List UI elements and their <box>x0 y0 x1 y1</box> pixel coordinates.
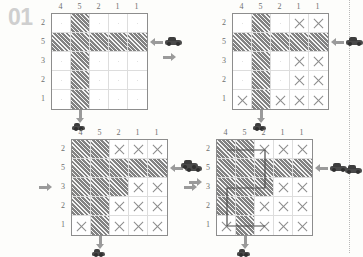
grid-cell[interactable] <box>293 216 312 235</box>
car-icon <box>181 160 198 169</box>
column-clue-4: 1 <box>273 128 292 137</box>
column-clues: 45211 <box>216 128 311 137</box>
grid-cell[interactable] <box>274 140 293 159</box>
column-clue-5: 1 <box>292 128 311 137</box>
row-clue-5: 1 <box>202 215 214 234</box>
grid-cell[interactable] <box>217 216 236 235</box>
arrow-left-icon <box>315 163 328 174</box>
grid-cell[interactable] <box>255 197 274 216</box>
car-icon <box>237 249 250 257</box>
grid-cell[interactable] <box>255 140 274 159</box>
column-clue-3: 2 <box>254 128 273 137</box>
grid-cell[interactable] <box>255 216 274 235</box>
grid-cell[interactable] <box>236 178 255 197</box>
grid-cell[interactable] <box>274 216 293 235</box>
arrow-right-icon <box>189 177 202 188</box>
column-clue-2: 5 <box>235 128 254 137</box>
grid-cell[interactable] <box>293 178 312 197</box>
puzzle-grid[interactable] <box>216 139 313 236</box>
grid-cell[interactable] <box>236 140 255 159</box>
arrow-right-icon <box>163 52 176 63</box>
grid-cell[interactable] <box>274 178 293 197</box>
row-clues: 25321 <box>202 139 214 234</box>
grid-cell[interactable] <box>293 140 312 159</box>
grid-cell[interactable] <box>274 159 293 178</box>
grid-cell[interactable] <box>236 159 255 178</box>
grid-cell[interactable] <box>255 159 274 178</box>
column-clue-1: 4 <box>216 128 235 137</box>
grid-cell[interactable] <box>274 197 293 216</box>
car-icon <box>345 165 362 174</box>
row-clue-2: 5 <box>202 158 214 177</box>
grid-cell[interactable] <box>255 178 274 197</box>
row-clue-3: 3 <box>202 177 214 196</box>
row-clue-4: 2 <box>202 196 214 215</box>
grid-cell[interactable] <box>236 216 255 235</box>
grid-cell[interactable] <box>217 178 236 197</box>
row-clue-1: 2 <box>202 139 214 158</box>
arrow-down-icon <box>240 236 251 249</box>
grid-cell[interactable] <box>217 159 236 178</box>
grid-cell[interactable] <box>217 140 236 159</box>
grid-cell[interactable] <box>217 197 236 216</box>
grid-cell[interactable] <box>293 159 312 178</box>
grid-cell[interactable] <box>236 197 255 216</box>
grid-cell[interactable] <box>293 197 312 216</box>
